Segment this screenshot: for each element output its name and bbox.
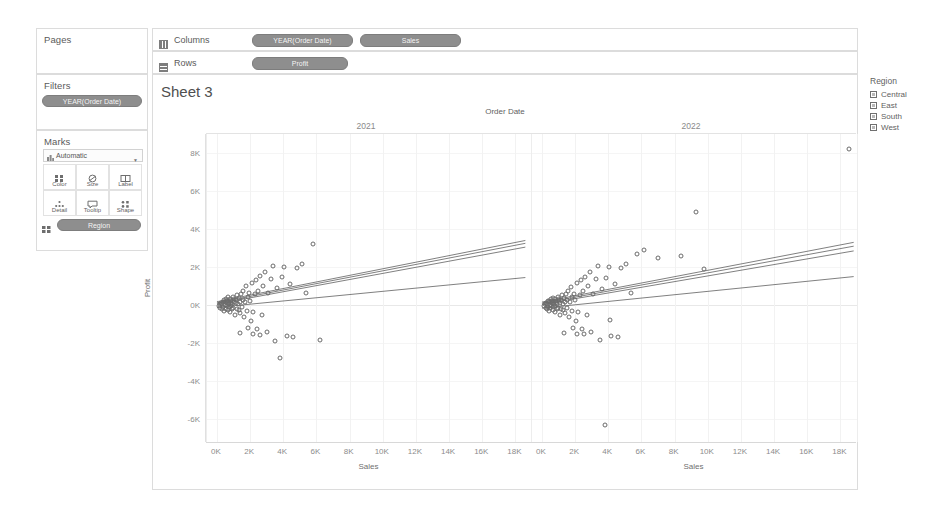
rows-pill-profit[interactable]: Profit (252, 57, 348, 70)
scatter-point[interactable] (600, 286, 605, 291)
scatter-point[interactable] (294, 266, 299, 271)
scatter-point[interactable] (572, 291, 577, 296)
scatter-point[interactable] (287, 281, 292, 286)
scatter-point[interactable] (277, 356, 282, 361)
scatter-point[interactable] (619, 266, 624, 271)
scatter-point[interactable] (602, 422, 607, 427)
columns-pill-year-order-date[interactable]: YEAR(Order Date) (252, 34, 353, 47)
scatter-point[interactable] (567, 314, 572, 319)
scatter-point[interactable] (612, 282, 617, 287)
scatter-point[interactable] (299, 261, 304, 266)
marks-button-label[interactable]: Label (109, 164, 142, 190)
scatter-point[interactable] (572, 298, 577, 303)
scatter-point[interactable] (604, 275, 609, 280)
scatter-point[interactable] (317, 337, 322, 342)
scatter-point[interactable] (568, 284, 573, 289)
marks-button-tooltip[interactable]: Tooltip (76, 190, 109, 216)
scatter-point[interactable] (641, 247, 646, 252)
scatter-point[interactable] (279, 275, 284, 280)
scatter-point[interactable] (694, 209, 699, 214)
marks-type-dropdown[interactable]: Automatic ▼ (43, 149, 143, 162)
scatter-point[interactable] (272, 338, 277, 343)
marks-encoding-pill-region[interactable]: Region (57, 219, 141, 231)
scatter-point[interactable] (259, 312, 264, 317)
scatter-point[interactable] (629, 291, 634, 296)
scatter-point[interactable] (248, 318, 253, 323)
scatter-point[interactable] (251, 309, 256, 314)
y-axis[interactable]: Profit 8K6K4K2K0K-2K-4K-6K (154, 134, 206, 442)
scatter-point[interactable] (255, 327, 260, 332)
scatter-point[interactable] (268, 276, 273, 281)
scatter-point[interactable] (584, 313, 589, 318)
columns-shelf[interactable]: Columns YEAR(Order Date) Sales (152, 28, 858, 51)
scatter-point[interactable] (258, 274, 263, 279)
scatter-point[interactable] (248, 298, 253, 303)
scatter-point[interactable] (304, 290, 309, 295)
scatter-point[interactable] (656, 255, 661, 260)
x-axis[interactable]: Sales 0K2K4K6K8K10K12K14K16K18K Sales 0K… (206, 442, 856, 488)
scatter-point[interactable] (679, 254, 684, 259)
scatter-point[interactable] (264, 330, 269, 335)
scatter-point[interactable] (282, 264, 287, 269)
scatter-point[interactable] (246, 325, 251, 330)
scatter-point[interactable] (582, 274, 587, 279)
scatter-point[interactable] (586, 284, 591, 289)
scatter-pane-2021[interactable] (206, 134, 533, 442)
scatter-point[interactable] (266, 291, 271, 296)
scatter-point[interactable] (615, 335, 620, 340)
scatter-point[interactable] (576, 309, 581, 314)
scatter-point[interactable] (574, 331, 579, 336)
legend-item[interactable]: East (870, 100, 946, 111)
scatter-point[interactable] (581, 289, 586, 294)
scatter-point[interactable] (562, 330, 567, 335)
scatter-point[interactable] (593, 277, 598, 282)
marks-button-size[interactable]: Size (76, 164, 109, 190)
scatter-point[interactable] (624, 262, 629, 267)
scatter-point[interactable] (258, 332, 263, 337)
scatter-point[interactable] (557, 312, 562, 317)
scatter-point[interactable] (242, 314, 247, 319)
scatter-point[interactable] (606, 265, 611, 270)
scatter-point[interactable] (569, 309, 574, 314)
scatter-point[interactable] (609, 334, 614, 339)
marks-button-shape[interactable]: Shape (109, 190, 142, 216)
scatter-point[interactable] (597, 338, 602, 343)
scatter-point[interactable] (238, 330, 243, 335)
scatter-point[interactable] (291, 335, 296, 340)
columns-pill-sales[interactable]: Sales (360, 34, 461, 47)
scatter-point[interactable] (244, 308, 249, 313)
scatter-point[interactable] (582, 332, 587, 337)
scatter-point[interactable] (579, 326, 584, 331)
scatter-point[interactable] (232, 312, 237, 317)
trend-line-east (217, 247, 525, 304)
scatter-point[interactable] (250, 332, 255, 337)
scatter-point[interactable] (702, 266, 707, 271)
legend-item[interactable]: West (870, 122, 946, 133)
legend-item-label: South (881, 112, 902, 121)
legend-item[interactable]: South (870, 111, 946, 122)
scatter-point[interactable] (571, 325, 576, 330)
scatter-point[interactable] (311, 241, 316, 246)
scatter-point[interactable] (263, 269, 268, 274)
scatter-point[interactable] (596, 263, 601, 268)
scatter-point[interactable] (846, 147, 851, 152)
scatter-point[interactable] (243, 284, 248, 289)
scatter-pane-2022[interactable] (531, 134, 858, 442)
scatter-point[interactable] (635, 251, 640, 256)
filter-pill-year-order-date[interactable]: YEAR(Order Date) (42, 95, 142, 107)
scatter-point[interactable] (271, 263, 276, 268)
scatter-point[interactable] (589, 329, 594, 334)
legend-item[interactable]: Central (870, 89, 946, 100)
scatter-point[interactable] (256, 288, 261, 293)
rows-shelf[interactable]: Rows Profit (152, 51, 858, 74)
scatter-point[interactable] (591, 291, 596, 296)
scatter-point[interactable] (284, 333, 289, 338)
scatter-point[interactable] (275, 286, 280, 291)
scatter-point[interactable] (573, 318, 578, 323)
scatter-point[interactable] (261, 283, 266, 288)
scatter-point[interactable] (247, 291, 252, 296)
scatter-point[interactable] (607, 317, 612, 322)
marks-button-detail[interactable]: Detail (43, 190, 76, 216)
scatter-point[interactable] (587, 270, 592, 275)
marks-button-color[interactable]: Color (43, 164, 76, 190)
